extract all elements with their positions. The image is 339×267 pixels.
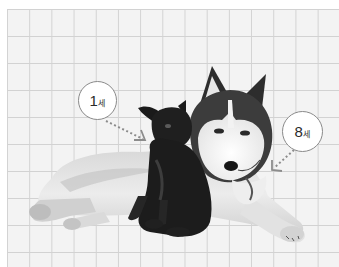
- photo-stage: 1세 8세: [0, 0, 339, 267]
- age-number: 8: [295, 123, 303, 140]
- arrow-to-husky: [272, 150, 294, 171]
- age-unit: 세: [98, 97, 105, 108]
- arrow-to-puppy: [106, 121, 145, 140]
- age-number: 1: [90, 92, 98, 109]
- age-callout-puppy: 1세: [78, 81, 117, 120]
- age-unit: 세: [303, 128, 310, 139]
- age-callout-husky: 8세: [282, 111, 323, 152]
